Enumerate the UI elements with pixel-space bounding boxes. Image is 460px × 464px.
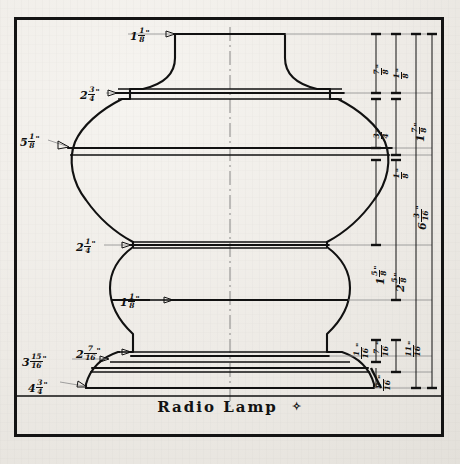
dim-label-neck-height: 78" bbox=[372, 64, 390, 76]
drawing-sheet: .ol{fill:none;stroke:#111;stroke-width:2… bbox=[0, 0, 460, 464]
dim-label-neck-top: 118" bbox=[130, 26, 150, 44]
dim-label-overall-height: 6316" bbox=[412, 205, 430, 230]
dim-label-waist-top: 214" bbox=[76, 237, 96, 255]
dim-label-body-total: 258" bbox=[390, 272, 408, 292]
dim-label-base-total: 1116" bbox=[404, 341, 422, 358]
dim-label-foot-collar: 2716" bbox=[76, 344, 101, 362]
dim-label-neck-flare: 18" bbox=[392, 68, 410, 80]
dim-label-base: 434" bbox=[28, 378, 48, 396]
dim-label-foot-band: 716" bbox=[372, 341, 390, 358]
dim-label-foot-lower: 31516" bbox=[22, 352, 47, 370]
dim-label-collar-band: 18" bbox=[392, 168, 410, 180]
dim-label-base-height: 916" bbox=[374, 375, 392, 392]
dimension-column-middle bbox=[391, 34, 401, 372]
dim-label-body-max: 518" bbox=[20, 132, 40, 150]
lamp-profile-drawing: .ol{fill:none;stroke:#111;stroke-width:2… bbox=[0, 0, 460, 464]
title-ornament-icon: ✧ bbox=[292, 400, 303, 413]
dimension-column-inner bbox=[371, 34, 381, 388]
drawing-title: Radio Lamp✧ bbox=[0, 398, 460, 416]
dim-label-neck-total: 178" bbox=[410, 122, 428, 142]
dim-label-waist-min: 118" bbox=[120, 292, 140, 310]
dim-label-body-upper: 158" bbox=[370, 265, 388, 285]
extension-lines-right bbox=[285, 34, 432, 388]
dim-label-foot-fillet: 116" bbox=[352, 343, 370, 360]
title-text: Radio Lamp bbox=[157, 398, 278, 416]
lamp-outline-right bbox=[230, 34, 388, 388]
dim-label-collar-height: 34" bbox=[372, 128, 390, 140]
dim-label-shoulder-collar: 234" bbox=[80, 85, 100, 103]
